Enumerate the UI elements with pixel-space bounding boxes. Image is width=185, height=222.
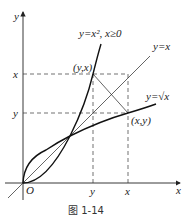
x-axis-label: x bbox=[175, 184, 181, 196]
point-yx-label: (y,x) bbox=[73, 61, 93, 74]
y-axis-label: y bbox=[13, 10, 19, 22]
identity-line bbox=[8, 56, 150, 198]
identity-label: y=x bbox=[152, 40, 170, 52]
dashed-guides bbox=[23, 74, 128, 183]
diagram-canvas: y x O y=x², x≥0 y=x y=√x (y,x) (x,y) x y… bbox=[0, 0, 185, 222]
figure-caption: 图 1-14 bbox=[68, 205, 104, 216]
y-tick-x: x bbox=[12, 68, 18, 80]
origin-label: O bbox=[26, 184, 34, 196]
function-inverse-diagram: y x O y=x², x≥0 y=x y=√x (y,x) (x,y) x y… bbox=[0, 0, 185, 222]
x-tick-x: x bbox=[124, 185, 130, 197]
point-xy-label: (x,y) bbox=[131, 114, 151, 127]
symmetry-segment bbox=[93, 74, 128, 113]
parabola-label: y=x², x≥0 bbox=[78, 27, 122, 39]
sqrt-label: y=√x bbox=[145, 90, 169, 102]
y-tick-y: y bbox=[12, 107, 18, 119]
x-tick-y: y bbox=[89, 185, 95, 197]
